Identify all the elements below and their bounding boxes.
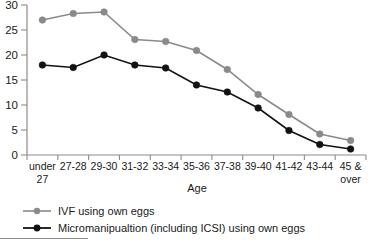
data-point-ivf bbox=[39, 17, 46, 24]
x-tick-label: 29-30 bbox=[91, 160, 118, 172]
x-axis-title: Age bbox=[187, 182, 207, 194]
data-point-ivf bbox=[193, 47, 200, 54]
data-point-ivf bbox=[132, 36, 139, 43]
x-tick-label: 35-36 bbox=[183, 160, 210, 172]
data-point-icsi bbox=[132, 62, 139, 69]
x-tick-label: 43-44 bbox=[306, 160, 333, 172]
data-point-icsi bbox=[347, 146, 354, 153]
data-point-ivf bbox=[347, 137, 354, 144]
y-tick-label: 20 bbox=[5, 49, 18, 61]
y-tick-label: 15 bbox=[5, 74, 18, 86]
data-point-icsi bbox=[193, 82, 200, 89]
x-tick-label: 37-38 bbox=[214, 160, 241, 172]
data-point-ivf bbox=[101, 9, 108, 16]
x-tick-label: 41-42 bbox=[276, 160, 303, 172]
y-tick-label: 5 bbox=[12, 124, 18, 136]
line-chart-figure: 051015202530 under2727-2829-3031-3233-34… bbox=[0, 0, 371, 243]
chart-legend: IVF using own eggs Micromanipualtion (in… bbox=[0, 200, 371, 243]
plot-area: 051015202530 under2727-2829-3031-3233-34… bbox=[0, 0, 371, 200]
data-point-ivf bbox=[255, 91, 262, 98]
legend-label-icsi: Micromanipualtion (including ICSI) using… bbox=[58, 222, 305, 234]
y-tick-label: 10 bbox=[5, 99, 18, 111]
series-layer bbox=[39, 9, 354, 153]
x-tick-label: 39-40 bbox=[245, 160, 272, 172]
data-point-ivf bbox=[224, 66, 231, 73]
series-line-ivf bbox=[42, 12, 350, 141]
x-tick-label: 31-32 bbox=[121, 160, 148, 172]
legend-item-icsi: Micromanipualtion (including ICSI) using… bbox=[0, 219, 371, 236]
y-tick-label: 30 bbox=[5, 0, 18, 11]
data-point-icsi bbox=[39, 62, 46, 69]
data-point-icsi bbox=[286, 127, 293, 134]
data-point-icsi bbox=[162, 65, 169, 72]
x-tick-label: 27-28 bbox=[60, 160, 87, 172]
y-tick-label: 25 bbox=[5, 24, 18, 36]
data-point-ivf bbox=[162, 38, 169, 45]
legend-swatch-icsi bbox=[22, 222, 52, 234]
chart-svg: 051015202530 under2727-2829-3031-3233-34… bbox=[0, 0, 371, 200]
data-point-icsi bbox=[70, 64, 77, 71]
legend-item-ivf: IVF using own eggs bbox=[0, 202, 371, 219]
series-line-icsi bbox=[42, 55, 350, 149]
legend-swatch-ivf bbox=[22, 205, 52, 217]
footnote-divider bbox=[0, 238, 88, 239]
data-point-icsi bbox=[316, 141, 323, 148]
x-tick-label: under27 bbox=[29, 160, 56, 185]
legend-label-ivf: IVF using own eggs bbox=[58, 205, 155, 217]
y-tick-label: 0 bbox=[12, 149, 18, 161]
y-axis-ticks: 051015202530 bbox=[5, 0, 27, 161]
data-point-ivf bbox=[70, 10, 77, 17]
data-point-icsi bbox=[255, 105, 262, 112]
x-tick-label: 33-34 bbox=[152, 160, 179, 172]
data-point-ivf bbox=[316, 131, 323, 138]
data-point-icsi bbox=[101, 52, 108, 59]
data-point-ivf bbox=[286, 111, 293, 118]
x-tick-label: 45 &over bbox=[340, 160, 362, 185]
data-point-icsi bbox=[224, 89, 231, 96]
